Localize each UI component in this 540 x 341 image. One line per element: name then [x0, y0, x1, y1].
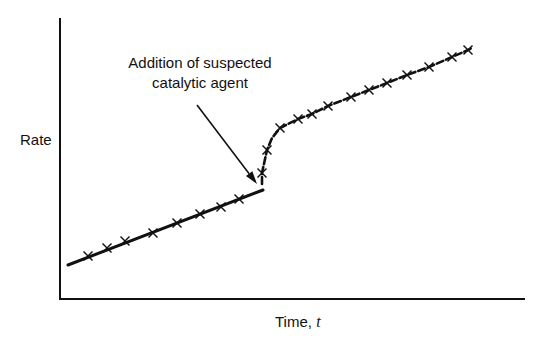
y-axis-label: Rate	[20, 131, 52, 148]
series-line-1	[68, 190, 263, 265]
rate-vs-time-chart	[0, 0, 540, 341]
annotation-line-2: catalytic agent	[100, 73, 300, 93]
arrow-head-icon	[246, 171, 257, 184]
catalyst-annotation: Addition of suspected catalytic agent	[100, 53, 300, 93]
x-axis-label-text: Time,	[275, 313, 312, 330]
arrow-shaft	[197, 105, 249, 174]
x-axis-label: Time, t	[275, 313, 321, 331]
x-axis-variable: t	[316, 313, 320, 330]
x-marker-icon	[276, 124, 285, 133]
annotation-line-1: Addition of suspected	[100, 53, 300, 73]
annotation-arrow	[197, 105, 257, 184]
